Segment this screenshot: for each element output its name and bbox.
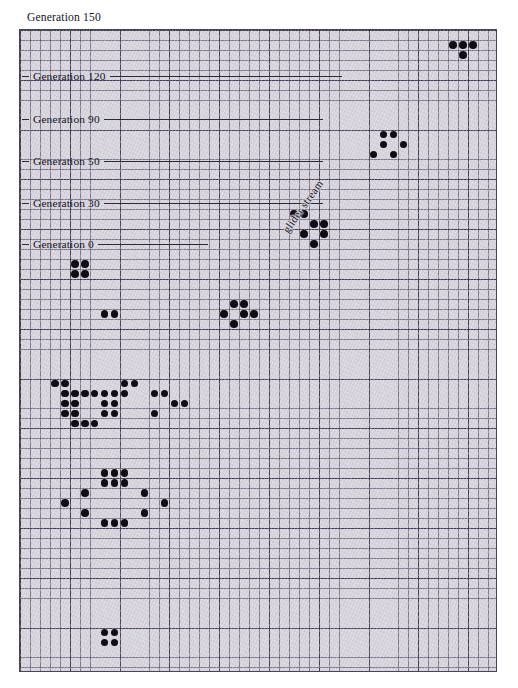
live-cell — [290, 210, 298, 218]
live-cell — [310, 240, 318, 248]
graph-paper-lines — [20, 30, 496, 671]
live-cell — [71, 270, 79, 278]
live-cell — [71, 420, 79, 428]
live-cell — [230, 320, 238, 328]
live-cell — [81, 270, 89, 278]
live-cell — [51, 380, 59, 388]
live-cell — [81, 420, 89, 428]
live-cell — [81, 260, 89, 268]
live-cell — [71, 390, 79, 398]
live-cell — [449, 41, 457, 49]
live-cell — [61, 380, 69, 388]
live-cell — [220, 310, 228, 318]
live-cell — [459, 51, 467, 59]
live-cell — [230, 300, 238, 308]
live-cell — [141, 509, 149, 517]
live-cell — [240, 300, 248, 308]
live-cell — [71, 260, 79, 268]
live-cell — [320, 220, 328, 228]
live-cell — [81, 390, 89, 398]
life-grid-paper — [19, 29, 497, 672]
live-cell — [101, 310, 109, 318]
live-cell — [61, 410, 69, 418]
live-cell — [61, 499, 69, 507]
live-cell — [300, 230, 308, 238]
live-cell — [161, 499, 169, 507]
live-cell — [320, 230, 328, 238]
live-cell — [459, 41, 467, 49]
live-cell — [61, 400, 69, 408]
live-cell — [310, 220, 318, 228]
live-cell — [111, 310, 119, 318]
live-cell — [71, 410, 79, 418]
live-cell — [81, 509, 89, 517]
live-cell — [250, 310, 258, 318]
live-cell — [71, 400, 79, 408]
live-cell — [141, 489, 149, 497]
page-title: Generation 150 — [27, 11, 101, 24]
live-cell — [240, 310, 248, 318]
live-cell — [81, 489, 89, 497]
live-cell — [300, 210, 308, 218]
live-cell — [61, 390, 69, 398]
live-cell — [121, 519, 129, 527]
figure-canvas: Generation 150 Generation 120Generation … — [0, 0, 518, 688]
live-cell — [469, 41, 477, 49]
